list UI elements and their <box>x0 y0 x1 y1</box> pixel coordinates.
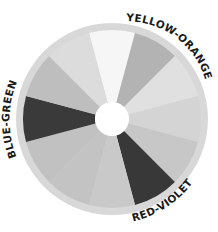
center-hole <box>95 102 129 136</box>
color-wheel: YELLOW-ORANGE BLUE-GREEN RED-VIOLET <box>0 0 218 232</box>
